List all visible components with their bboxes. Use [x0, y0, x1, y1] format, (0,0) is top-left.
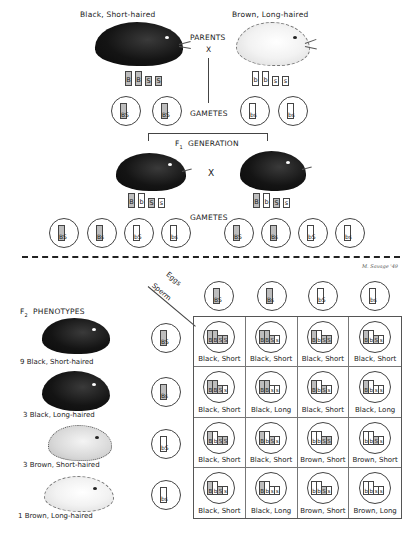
zygote-icon: bbss — [359, 472, 391, 504]
chromosome: S — [273, 198, 280, 208]
f1-label-suffix: GENERATION — [188, 139, 239, 148]
phenotype-label: Black, Short — [194, 355, 245, 363]
gamete-label: Bs — [266, 288, 273, 304]
gamete-label: BS — [58, 225, 65, 241]
parents-label: PARENTS — [190, 33, 225, 42]
phenotype-count: 3 — [23, 411, 27, 419]
sperm-header-bS: bS — [151, 429, 181, 459]
phenotype-label: Black, Long — [246, 507, 297, 515]
gamete-label: Bs — [160, 384, 167, 400]
egg-header-BS: BS — [204, 281, 234, 311]
parent-right-genotype: b b s s — [252, 71, 289, 86]
zygote-icon: BbSS — [307, 321, 339, 353]
f1-bracket-right — [267, 133, 268, 141]
brown-long-haired-guinea-pig-icon — [236, 22, 310, 66]
gamete-label: bs — [160, 487, 167, 503]
sperm-gamete-Bs: Bs — [87, 218, 117, 248]
gamete-label: bS — [307, 225, 314, 241]
punnett-cell: BbSsBlack, Short — [194, 468, 246, 518]
chromosome: B — [125, 71, 132, 86]
punnett-cell: BbSSBlack, Short — [298, 317, 350, 367]
gamete-label: bS — [133, 225, 140, 241]
gamete-label: bS — [160, 436, 167, 452]
phenotype-count: 1 — [18, 512, 22, 520]
chromosome: b — [263, 193, 270, 208]
f1-bracket-line — [148, 133, 268, 134]
punnett-cell: BBSsBlack, Short — [194, 367, 246, 417]
f1-black-guinea-pig-icon — [116, 153, 186, 191]
punnett-cell: bbssBrown, Long — [349, 468, 401, 518]
gamete-label: bs — [170, 225, 177, 241]
zygote-icon: BBSS — [203, 321, 235, 353]
f1-generation-label: F1 GENERATION — [175, 139, 239, 150]
parent-left-genotype: B B S S — [125, 71, 162, 86]
zygote-icon: BbSs — [255, 422, 287, 454]
egg-gamete-bs: bs — [335, 218, 365, 248]
egg-header-Bs: Bs — [257, 281, 287, 311]
chromosome: b — [262, 71, 269, 86]
sperm-gamete-bs: bs — [161, 218, 191, 248]
punnett-cell: BBSsBlack, Short — [246, 317, 298, 367]
phenotype-label: Black, Short — [246, 355, 297, 363]
punnett-cell: BbssBlack, Long — [246, 468, 298, 518]
zygote-icon: bbSs — [307, 472, 339, 504]
punnett-cell: BbssBlack, Long — [349, 367, 401, 417]
chromosome: s — [283, 198, 290, 208]
chromosome: S — [148, 198, 155, 208]
zygote-icon: BbSs — [359, 321, 391, 353]
gamete-label: BS — [160, 330, 167, 346]
gamete-label: bS — [317, 288, 324, 304]
zygote-icon: BbSs — [307, 371, 339, 403]
phenotype-label: Brown, Long — [349, 507, 401, 515]
section-divider — [22, 256, 400, 258]
phenotype-label: Black, Long-haired — [30, 411, 95, 419]
f2-black-short-guinea-pig-icon — [42, 318, 110, 354]
zygote-icon: BBss — [255, 371, 287, 403]
chromosome: S — [145, 76, 152, 86]
gametes-label: GAMETES — [190, 109, 228, 118]
f2-black-long-guinea-pig-icon — [42, 371, 110, 411]
chromosome: B — [128, 193, 135, 208]
egg-header-bs: bs — [360, 281, 390, 311]
gamete-bs: bs — [240, 96, 270, 126]
f1-gametes-label: GAMETES — [190, 213, 228, 222]
phenotype-count: 9 — [20, 358, 24, 366]
f2-brown-long-guinea-pig-icon — [44, 476, 114, 512]
f2-phenotype-3: 3 Brown, Short-haired — [23, 461, 100, 469]
phenotype-label: Black, Short — [194, 406, 245, 414]
sperm-gamete-bS: bS — [124, 218, 154, 248]
f2-phenotypes-title: F2 PHENOTYPES — [20, 307, 85, 318]
phenotype-label: Brown, Short — [298, 456, 349, 464]
zygote-icon: Bbss — [359, 371, 391, 403]
f1-black-guinea-pig-icon — [240, 151, 306, 191]
gamete-label: bs — [369, 288, 376, 304]
f1-bracket-left — [148, 133, 149, 141]
gamete-label: bs — [287, 103, 294, 119]
phenotype-label: Black, Short — [194, 456, 245, 464]
punnett-cell: BbSsBlack, Short — [349, 317, 401, 367]
gamete-BS: BS — [111, 96, 141, 126]
egg-gamete-BS: BS — [224, 218, 254, 248]
phenotype-label: Black, Short — [349, 355, 401, 363]
eggs-label: Eggs — [164, 270, 182, 287]
phenotype-label: Black, Long — [246, 406, 297, 414]
punnett-cell: bbSsBrown, Short — [298, 468, 350, 518]
zygote-icon: BbSs — [203, 472, 235, 504]
chromosome: B — [135, 71, 142, 86]
sperm-gamete-BS: BS — [49, 218, 79, 248]
gamete-label: bs — [249, 103, 256, 119]
phenotype-label: Brown, Long-haired — [25, 512, 93, 520]
sperm-header-Bs: Bs — [151, 377, 181, 407]
chromosome: S — [155, 76, 162, 86]
phenotype-label: Black, Short — [298, 406, 349, 414]
gamete-label: BS — [120, 103, 127, 119]
punnett-cell: bbSsBrown, Short — [349, 418, 401, 468]
zygote-icon: bbSS — [307, 422, 339, 454]
phenotype-label: Black, Short-haired — [27, 358, 94, 366]
f2-brown-short-guinea-pig-icon — [48, 425, 112, 461]
chromosome: b — [252, 71, 259, 86]
phenotype-label: Brown, Short — [298, 507, 349, 515]
punnett-cell: BBSSBlack, Short — [194, 317, 246, 367]
f2-phenotype-1: 9 Black, Short-haired — [20, 358, 94, 366]
sperm-header-bs: bs — [151, 480, 181, 510]
